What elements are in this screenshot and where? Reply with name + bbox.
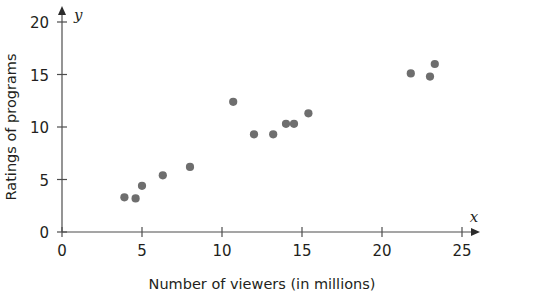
data-point: (21.8, 15.1) (407, 69, 415, 77)
top-crop-band (0, 0, 555, 4)
data-point: (8, 6.2) (186, 163, 194, 171)
data-points-group: (3.9, 3.3)(4.6, 3.2)(5, 4.4)(6.3, 5.4)(8… (120, 60, 439, 203)
axis-variable-letters: xyNumber of viewers (in millions)Ratings… (3, 6, 479, 292)
x-axis-arrow-icon (471, 228, 480, 236)
axes-group (58, 6, 480, 236)
x-tick-label-0: 0 (57, 242, 67, 260)
data-point: (3.9, 3.3) (120, 193, 128, 201)
x-tick-label-5: 5 (137, 242, 147, 260)
x-axis-title: Number of viewers (in millions) (149, 276, 376, 292)
y-tick-label-10: 10 (30, 119, 49, 137)
data-point: (4.6, 3.2) (132, 194, 140, 202)
data-point: (23.3, 16) (431, 60, 439, 68)
data-point: (6.3, 5.4) (159, 171, 167, 179)
y-axis-arrow-icon (58, 6, 66, 15)
plot-area: 051015202505101520 (3.9, 3.3)(4.6, 3.2)(… (0, 0, 555, 295)
data-point: (15.4, 11.3) (304, 109, 312, 117)
y-tick-label-5: 5 (39, 172, 49, 190)
data-point: (14.5, 10.3) (290, 120, 298, 128)
x-tick-label-15: 15 (292, 242, 311, 260)
scatter-chart: 051015202505101520 (3.9, 3.3)(4.6, 3.2)(… (0, 0, 555, 295)
x-tick-label-10: 10 (212, 242, 231, 260)
data-point: (13.2, 9.3) (269, 130, 277, 138)
x-tick-label-25: 25 (452, 242, 471, 260)
data-point: (5, 4.4) (138, 182, 146, 190)
data-point: (10.7, 12.4) (229, 98, 237, 106)
x-axis-variable-label: x (470, 208, 479, 226)
y-tick-label-0: 0 (39, 224, 49, 242)
y-tick-label-15: 15 (30, 67, 49, 85)
data-point: (23, 14.8) (426, 73, 434, 81)
y-axis-variable-label: y (73, 6, 83, 24)
y-tick-label-20: 20 (30, 14, 49, 32)
tick-labels-group: 051015202505101520 (30, 14, 472, 260)
data-point: (14, 10.3) (282, 120, 290, 128)
y-axis-title: Ratings of programs (3, 54, 19, 201)
x-tick-label-20: 20 (372, 242, 391, 260)
ticks-group (57, 22, 462, 237)
data-point: (12, 9.3) (250, 130, 258, 138)
